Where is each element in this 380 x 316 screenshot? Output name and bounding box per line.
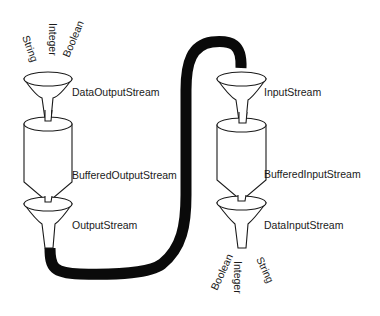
data-input-stream-label: DataInputStream [264,219,344,231]
type-integer-label-out: Integer [47,23,59,56]
type-integer-label-in: Integer [232,261,244,294]
type-string-label-in: String [254,255,277,285]
input-stack: InputStream BufferedInputStream DataInpu… [208,72,361,294]
output-stack: DataOutputStream BufferedOutputStream Ou… [20,18,177,248]
type-boolean-label-out: Boolean [60,18,86,58]
stream-diagram: DataOutputStream BufferedOutputStream Ou… [0,0,380,316]
data-output-stream-label: DataOutputStream [72,86,160,98]
type-boolean-label-in: Boolean [208,252,235,292]
output-stream-funnel [24,196,72,248]
connection-cable [50,42,241,275]
type-string-label-out: String [20,34,41,64]
buffered-input-stream-label: BufferedInputStream [264,168,361,180]
buffered-output-stream-cylinder [24,110,72,208]
data-input-stream-funnel [217,195,266,248]
output-stream-label: OutputStream [72,219,138,231]
buffered-input-stream-cylinder [217,112,266,206]
buffered-output-stream-label: BufferedOutputStream [72,169,177,181]
input-stream-label: InputStream [264,86,321,98]
